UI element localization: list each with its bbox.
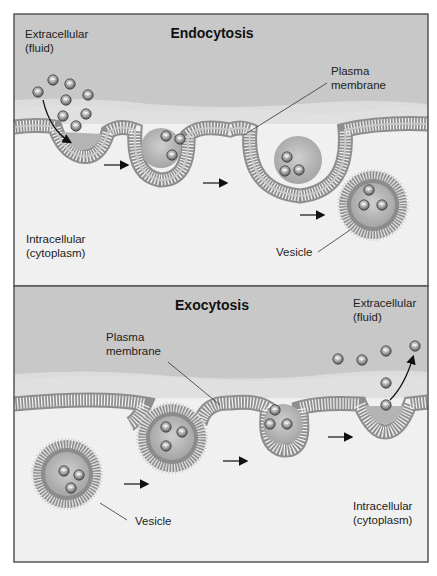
vesicle-label: Vesicle bbox=[276, 246, 312, 258]
extracellular-label: Extracellular bbox=[353, 297, 416, 309]
intracellular-label: Intracellular bbox=[353, 500, 413, 512]
plasma-membrane-label-2: membrane bbox=[331, 79, 386, 91]
endo-exocytosis-figure: Endocytosis Extracellular (fluid) Plasma… bbox=[0, 0, 437, 576]
endocytosis-title: Endocytosis bbox=[170, 25, 253, 41]
intracellular-label: Intracellular bbox=[26, 233, 86, 245]
extracellular-label-2: (fluid) bbox=[353, 311, 382, 323]
exocytosis-title: Exocytosis bbox=[175, 297, 249, 313]
vesicle bbox=[339, 171, 407, 239]
plasma-membrane-label-2: membrane bbox=[106, 345, 161, 357]
vesicle-label: Vesicle bbox=[135, 515, 171, 527]
extracellular-label-2: (fluid) bbox=[25, 42, 54, 54]
endocytosis-panel: Endocytosis Extracellular (fluid) Plasma… bbox=[14, 14, 428, 286]
intracellular-label-2: (cytoplasm) bbox=[26, 247, 86, 259]
vesicle bbox=[138, 404, 206, 472]
plasma-membrane-label: Plasma bbox=[106, 331, 145, 343]
extracellular-label: Extracellular bbox=[25, 28, 88, 40]
exocytosis-panel: Exocytosis Extracellular (fluid) Plasma … bbox=[14, 286, 428, 562]
plasma-membrane-label: Plasma bbox=[331, 65, 370, 77]
intracellular-label-2: (cytoplasm) bbox=[353, 514, 413, 526]
